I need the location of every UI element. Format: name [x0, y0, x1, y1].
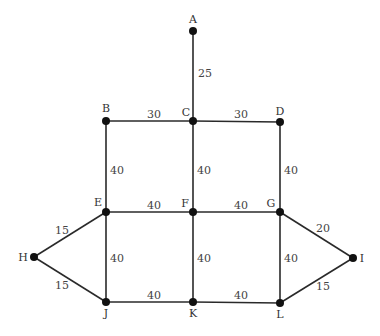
node-a-label: A — [188, 13, 198, 26]
edge-weight-e-j: 40 — [110, 252, 124, 265]
node-i-label: I — [360, 252, 364, 265]
edge-weight-f-k: 40 — [197, 252, 211, 265]
node-j-dot — [102, 298, 110, 306]
node-g-label: G — [267, 197, 276, 210]
node-k-label: K — [189, 307, 198, 320]
edge-k-l — [193, 302, 280, 303]
node-e-dot — [102, 208, 110, 216]
node-b-dot — [102, 117, 110, 125]
node-h-dot — [30, 253, 38, 261]
edge-weight-j-k: 40 — [147, 289, 161, 302]
node-d-dot — [276, 118, 284, 126]
edge-weight-a-c: 25 — [198, 67, 212, 80]
edge-weight-c-f: 40 — [197, 164, 211, 177]
node-labels: ABCDEFGHIJKL — [18, 13, 364, 321]
edge-weight-k-l: 40 — [234, 289, 248, 302]
node-k-dot — [189, 298, 197, 306]
edge-weight-g-i: 20 — [316, 222, 330, 235]
node-a-dot — [189, 27, 197, 35]
edge-weight-c-d: 30 — [234, 108, 248, 121]
node-h-label: H — [18, 251, 28, 264]
node-e-label: E — [94, 196, 102, 209]
node-f-label: F — [181, 197, 189, 210]
edge-c-d — [193, 121, 280, 122]
edge-weight-d-g: 40 — [284, 164, 298, 177]
edge-h-j — [34, 257, 106, 302]
node-j-label: J — [103, 307, 108, 320]
edge-weight-b-c: 30 — [147, 108, 161, 121]
node-l-label: L — [276, 308, 284, 321]
node-b-label: B — [102, 102, 110, 115]
edge-weight-e-f: 40 — [147, 199, 161, 212]
node-g-dot — [276, 208, 284, 216]
node-d-label: D — [276, 105, 285, 118]
graph-edges — [34, 31, 353, 303]
edge-weight-e-h: 15 — [55, 224, 69, 237]
weighted-graph-diagram: 2530304040404040151540404020154040 ABCDE… — [0, 0, 380, 336]
edge-weight-l-i: 15 — [316, 280, 330, 293]
edge-weight-b-e: 40 — [110, 164, 124, 177]
node-l-dot — [276, 299, 284, 307]
edge-weight-h-j: 15 — [55, 279, 69, 292]
node-c-label: C — [182, 106, 190, 119]
edge-weight-g-l: 40 — [284, 252, 298, 265]
edge-weight-f-g: 40 — [234, 199, 248, 212]
edge-e-h — [34, 212, 106, 257]
node-f-dot — [189, 208, 197, 216]
node-i-dot — [349, 254, 357, 262]
